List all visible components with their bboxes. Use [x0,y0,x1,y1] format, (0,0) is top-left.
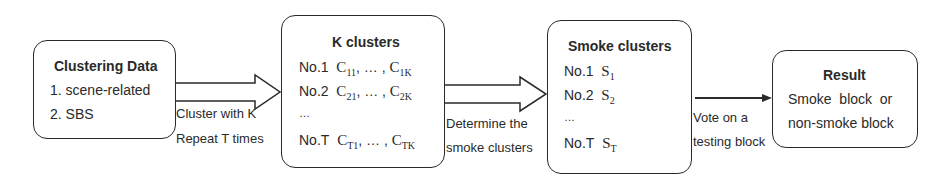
ellipsis-sep: , … , [356,83,389,99]
smoke-symbol: S2 [601,87,614,103]
arrowhead-3 [762,94,772,102]
block-arrow-1 [175,75,280,109]
k-clusters-box: K clusters No.1 C11, … , C1K No.2 C21, …… [281,15,445,168]
smoke-clusters-row-ellipsis: … [564,111,575,123]
row-label: No.2 [564,87,594,103]
cluster-symbol-first: C11 [336,59,356,75]
smoke-clusters-row-t: No.T ST [564,135,617,154]
smoke-clusters-row-1: No.1 S1 [564,63,615,82]
result-title: Result [823,67,866,83]
k-clusters-title: K clusters [332,34,400,50]
clustering-data-item-2: 2. SBS [50,106,94,122]
arrow-1-label-line-2: Repeat T times [176,131,264,146]
cluster-symbol-first: C21 [336,83,356,99]
ellipsis-sep: , … , [358,132,391,148]
cluster-symbol-last: C2K [390,83,412,99]
clustering-data-title: Clustering Data [54,58,157,74]
block-arrow-2 [444,77,546,111]
cluster-symbol-first: CT1 [337,132,358,148]
cluster-symbol-last: CTK [392,132,415,148]
clustering-data-box: Clustering Data 1. scene-related 2. SBS [33,40,176,139]
result-line-2: non-smoke block [788,115,894,131]
ellipsis-sep: , … , [356,59,389,75]
row-label: No.1 [299,59,329,75]
row-label: No.2 [299,83,329,99]
row-label: No.1 [564,63,594,79]
arrow-3-label-line-1: Vote on a [693,110,748,125]
k-clusters-row-ellipsis: … [299,107,310,119]
clustering-data-item-1: 1. scene-related [50,82,150,98]
arrow-2-label-line-2: smoke clusters [446,140,533,155]
result-box: Result Smoke block or non-smoke block [772,50,918,148]
smoke-clusters-title: Smoke clusters [568,38,672,54]
result-line-1: Smoke block or [788,91,892,107]
smoke-clusters-row-2: No.2 S2 [564,87,615,106]
cluster-symbol-last: C1K [389,59,411,75]
arrow-3-label-line-2: testing block [693,134,765,149]
row-label: No.T [564,135,594,151]
row-label: No.T [299,132,329,148]
smoke-symbol: ST [602,135,616,151]
arrow-2-label-line-1: Determine the [446,116,528,131]
k-clusters-row-1: No.1 C11, … , C1K [299,59,412,78]
k-clusters-row-2: No.2 C21, … , C2K [299,83,412,102]
smoke-symbol: S1 [601,63,614,79]
k-clusters-row-t: No.T CT1, … , CTK [299,132,415,151]
smoke-clusters-box: Smoke clusters No.1 S1 No.2 S2 … No.T ST [547,20,692,174]
arrow-1-label-line-1: Cluster with K [176,106,256,121]
